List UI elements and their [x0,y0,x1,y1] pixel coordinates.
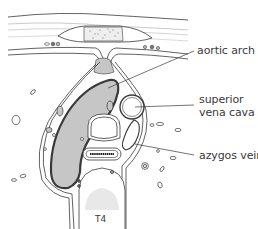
internal-thoracic-vessels [45,42,160,49]
label-superior-vena-cava-line1: superior [199,93,243,106]
vertebra-level-caption: T4 [95,214,106,224]
trachea [88,114,120,141]
sternum [58,26,152,42]
anatomy-diagram: aortic arch superior vena cava azygos ve… [0,0,258,229]
label-superior-vena-cava-line2: vena cava [199,106,255,119]
label-azygos-vein: azygos vein [199,149,258,162]
esophagus [83,148,121,160]
label-aortic-arch: aortic arch [197,44,255,57]
